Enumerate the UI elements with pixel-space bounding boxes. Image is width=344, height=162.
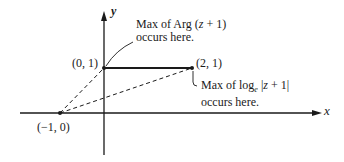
point-label-minus1-0: (−1, 0)	[37, 121, 70, 134]
log-annotation-end: + 1|	[268, 78, 289, 92]
point-0-1	[102, 66, 106, 70]
point-2-1	[190, 66, 194, 70]
log-annotation: Max of loge |z + 1| occurs here.	[201, 79, 289, 109]
x-axis-label: x	[324, 104, 330, 117]
point-minus1-0	[58, 111, 62, 115]
complex-plane-diagram: y x (0, 1) (2, 1) (−1, 0) Max of Arg (z …	[0, 0, 344, 162]
y-axis-arrow-icon	[101, 11, 107, 21]
arg-annotation-end: + 1)	[203, 17, 226, 31]
point-label-2-1: (2, 1)	[196, 57, 222, 70]
log-annotation-text: Max of log	[201, 78, 254, 92]
arg-annotation-text: Max of Arg (	[136, 17, 199, 31]
arg-leader-line	[106, 42, 133, 66]
x-axis-arrow-icon	[312, 110, 322, 116]
point-label-0-1: (0, 1)	[72, 57, 98, 70]
y-axis-label: y	[111, 5, 116, 18]
log-leader-line	[193, 71, 197, 86]
arg-annotation: Max of Arg (z + 1) occurs here.	[136, 18, 226, 44]
dashed-line-to-2-1	[60, 68, 192, 113]
log-annotation-line2: occurs here.	[201, 96, 289, 109]
arg-annotation-line2: occurs here.	[136, 31, 226, 44]
dashed-line-to-0-1	[60, 68, 104, 113]
